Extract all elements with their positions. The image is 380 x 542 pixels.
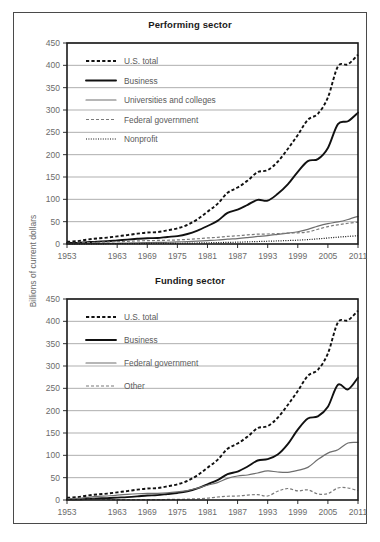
x-tick-label: 1981 bbox=[198, 251, 217, 261]
legend-label: Federal government bbox=[124, 358, 199, 368]
x-tick-label: 1953 bbox=[58, 507, 77, 517]
y-tick-label: 350 bbox=[46, 83, 60, 93]
y-tick-label: 300 bbox=[46, 105, 60, 115]
y-tick-label: 100 bbox=[46, 450, 60, 460]
x-tick-label: 1999 bbox=[288, 507, 307, 517]
plot-area-funding: 0501001502002503003504004501953196319691… bbox=[14, 269, 368, 525]
y-tick-label: 300 bbox=[46, 361, 60, 371]
y-tick-label: 50 bbox=[51, 473, 61, 483]
data-series-line bbox=[67, 55, 358, 242]
x-tick-label: 1953 bbox=[58, 251, 77, 261]
x-tick-label: 2011 bbox=[349, 251, 368, 261]
legend-label: Federal government bbox=[124, 115, 199, 125]
x-tick-label: 1963 bbox=[108, 507, 127, 517]
y-tick-label: 450 bbox=[46, 294, 60, 304]
chart-performing-sector: Performing sector 0501001502002503003504… bbox=[14, 13, 366, 269]
y-tick-label: 400 bbox=[46, 316, 60, 326]
legend-label: Business bbox=[124, 76, 158, 86]
x-tick-label: 1969 bbox=[138, 251, 157, 261]
x-tick-label: 1963 bbox=[108, 251, 127, 261]
chart-funding-sector: Funding sector 0501001502002503003504004… bbox=[14, 269, 366, 525]
plot-area-performing: 0501001502002503003504004501953196319691… bbox=[14, 13, 368, 269]
legend-label: Other bbox=[124, 381, 145, 391]
legend-label: U.S. total bbox=[124, 56, 158, 66]
legend-label: Business bbox=[124, 335, 158, 345]
legend-label: Universities and colleges bbox=[124, 95, 216, 105]
legend-label: Nonprofit bbox=[124, 134, 158, 144]
x-tick-label: 1981 bbox=[198, 507, 217, 517]
y-tick-label: 200 bbox=[46, 150, 60, 160]
y-tick-label: 150 bbox=[46, 172, 60, 182]
y-tick-label: 150 bbox=[46, 428, 60, 438]
y-tick-label: 100 bbox=[46, 194, 60, 204]
x-tick-label: 1975 bbox=[168, 507, 187, 517]
x-tick-label: 2005 bbox=[318, 507, 337, 517]
y-tick-label: 50 bbox=[51, 217, 61, 227]
y-tick-label: 350 bbox=[46, 339, 60, 349]
y-tick-label: 0 bbox=[55, 239, 60, 249]
legend-label: U.S. total bbox=[124, 312, 158, 322]
y-tick-label: 400 bbox=[46, 60, 60, 70]
x-tick-label: 1993 bbox=[258, 507, 277, 517]
y-tick-label: 200 bbox=[46, 406, 60, 416]
data-series-line bbox=[67, 311, 358, 498]
x-tick-label: 1999 bbox=[288, 251, 307, 261]
x-tick-label: 2011 bbox=[349, 507, 368, 517]
x-tick-label: 1969 bbox=[138, 507, 157, 517]
x-tick-label: 1987 bbox=[228, 251, 247, 261]
figure-frame: Billions of current dollars Performing s… bbox=[13, 12, 367, 524]
x-tick-label: 2005 bbox=[318, 251, 337, 261]
y-tick-label: 0 bbox=[55, 495, 60, 505]
y-tick-label: 450 bbox=[46, 38, 60, 48]
y-tick-label: 250 bbox=[46, 383, 60, 393]
data-series-line bbox=[67, 378, 358, 500]
x-tick-label: 1987 bbox=[228, 507, 247, 517]
y-tick-label: 250 bbox=[46, 127, 60, 137]
x-tick-label: 1993 bbox=[258, 251, 277, 261]
x-tick-label: 1975 bbox=[168, 251, 187, 261]
data-series-line bbox=[67, 442, 358, 498]
